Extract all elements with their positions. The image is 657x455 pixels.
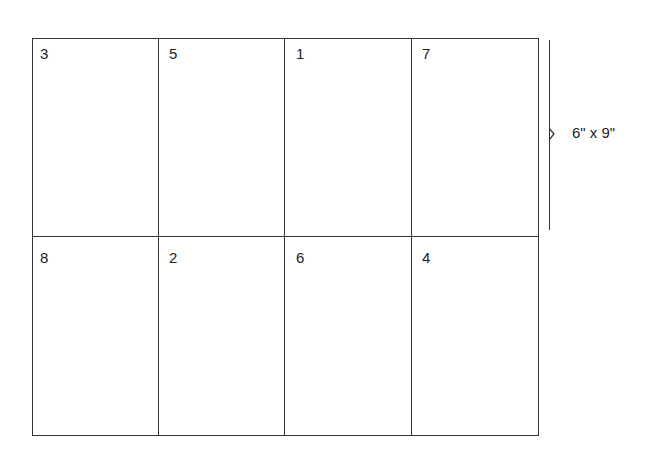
page-grid: 3 5 1 7 8 2 6 4 [32, 38, 539, 436]
row-divider [33, 236, 538, 237]
bracket-point-icon [549, 128, 555, 140]
page-number-cell: 8 [40, 250, 48, 265]
page-number-cell: 7 [422, 46, 430, 61]
page-number-cell: 6 [296, 250, 304, 265]
page-number-cell: 3 [40, 46, 48, 61]
page-number-cell: 2 [169, 250, 177, 265]
column-divider-1 [158, 39, 159, 435]
column-divider-3 [411, 39, 412, 435]
column-divider-2 [284, 39, 285, 435]
page-number-cell: 5 [169, 46, 177, 61]
page-number-cell: 1 [296, 46, 304, 61]
dimension-label: 6" x 9" [572, 124, 615, 141]
page-number-cell: 4 [422, 250, 430, 265]
